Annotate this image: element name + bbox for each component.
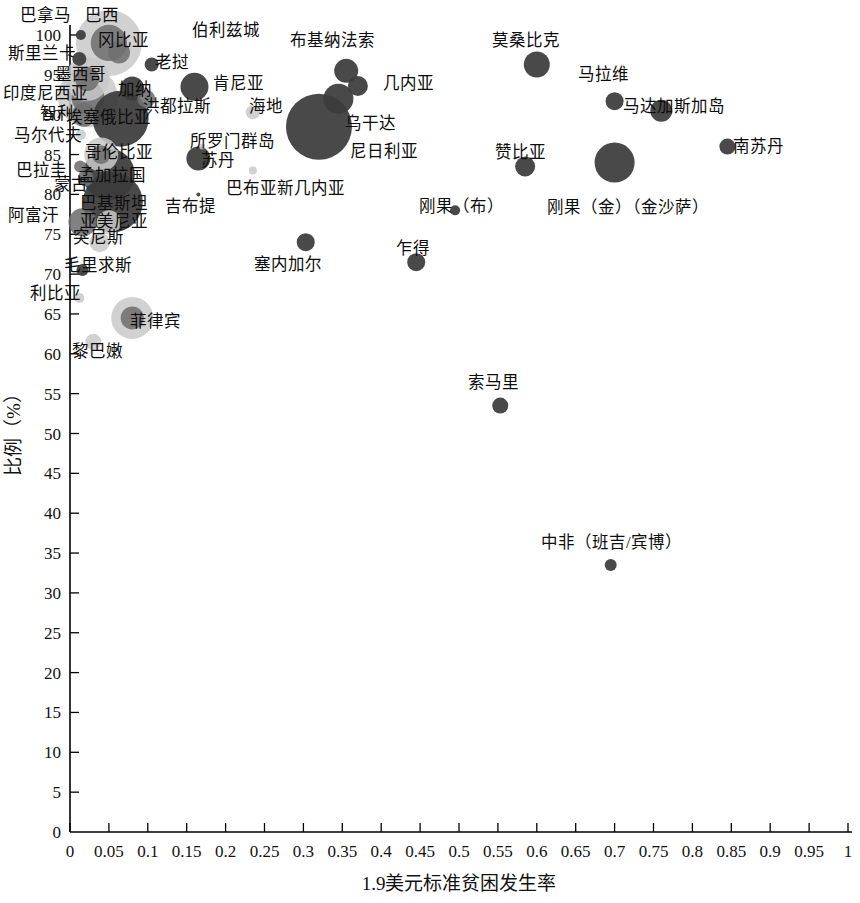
data-bubble[interactable]: [76, 30, 86, 40]
point-label: 毛里求斯: [64, 258, 132, 275]
x-tick-label: 0.55: [483, 842, 513, 861]
x-tick-label: 0.7: [604, 842, 626, 861]
point-label: 洪都拉斯: [143, 99, 211, 116]
point-label: 马尔代夫: [14, 128, 82, 145]
point-label: 莫桑比克: [492, 33, 560, 50]
y-tick-label: 40: [44, 504, 61, 523]
x-tick-label: 0.3: [293, 842, 314, 861]
x-tick-label: 0.75: [639, 842, 669, 861]
data-bubble[interactable]: [524, 51, 550, 77]
y-tick-label: 30: [44, 584, 61, 603]
y-tick-label: 10: [44, 743, 61, 762]
point-label: 乍得: [396, 241, 430, 258]
y-tick-label: 75: [44, 225, 61, 244]
y-tick-label: 0: [53, 823, 62, 842]
point-label: 海地: [249, 99, 283, 116]
point-label: 斯里兰卡: [8, 46, 76, 63]
point-label: 南苏丹: [733, 139, 784, 156]
point-label: 巴基斯坦: [80, 196, 148, 213]
y-axis-title: 比例（%）: [3, 384, 24, 476]
point-label: 刚果（布）: [419, 199, 504, 216]
point-label: 赞比亚: [495, 145, 546, 162]
point-label: 马达加斯加岛: [623, 99, 725, 116]
x-tick-label: 0.9: [760, 842, 781, 861]
point-label: 马拉维: [578, 67, 629, 84]
point-label: 哥伦比亚: [85, 145, 153, 162]
point-label: 冈比亚: [98, 33, 149, 50]
x-tick-label: 0.25: [250, 842, 280, 861]
y-tick-label: 65: [44, 305, 61, 324]
y-tick-label: 5: [53, 783, 62, 802]
point-label: 塞内加尔: [254, 257, 322, 274]
point-label: 墨西哥: [55, 67, 106, 84]
x-tick-label: 0.95: [794, 842, 824, 861]
point-label: 黎巴嫩: [72, 344, 123, 361]
point-label: 索马里: [468, 375, 519, 392]
x-tick-label: 0.1: [137, 842, 158, 861]
point-label: 埃塞俄比亚: [66, 110, 151, 127]
x-tick-label: 0.45: [405, 842, 435, 861]
y-tick-label: 100: [36, 26, 62, 45]
bubble-scatter-chart: 00.050.10.150.20.250.30.350.40.450.50.55…: [0, 0, 860, 903]
data-bubble[interactable]: [595, 143, 635, 183]
point-label: 刚果（金）（金沙萨）: [547, 200, 709, 217]
point-label: 尼日利亚: [350, 144, 418, 161]
point-label: 巴拿马: [20, 8, 71, 25]
point-label: 乌干达: [345, 116, 396, 133]
y-tick-label: 70: [44, 265, 61, 284]
point-label: 所罗门群岛: [190, 134, 275, 151]
point-label: 印度尼西亚: [3, 86, 88, 103]
x-tick-label: 0.5: [448, 842, 469, 861]
data-bubble[interactable]: [606, 92, 624, 110]
point-label: 中非（班吉/宾博）: [541, 535, 682, 552]
point-label: 老挝: [155, 55, 189, 72]
data-bubbles: [58, 10, 736, 571]
data-bubble[interactable]: [605, 559, 617, 571]
x-tick-label: 0: [66, 842, 75, 861]
x-tick-label: 0.4: [371, 842, 393, 861]
x-tick-label: 0.35: [327, 842, 357, 861]
point-label: 利比亚: [30, 286, 81, 303]
point-label: 布基纳法索: [290, 33, 375, 50]
data-bubble[interactable]: [249, 166, 257, 174]
y-tick-label: 60: [44, 345, 61, 364]
x-tick-label: 0.6: [526, 842, 547, 861]
point-label: 伯利兹城: [192, 23, 260, 40]
point-label: 肯尼亚: [213, 76, 264, 93]
x-tick-label: 0.15: [172, 842, 202, 861]
y-tick-label: 35: [44, 544, 61, 563]
x-axis-title: 1.9美元标准贫困发生率: [362, 873, 557, 894]
data-bubble[interactable]: [348, 76, 368, 96]
point-label: 突尼斯: [73, 230, 124, 247]
y-tick-label: 20: [44, 664, 61, 683]
point-label: 巴西: [85, 8, 119, 25]
y-tick-label: 15: [44, 703, 61, 722]
chart-page: 00.050.10.150.20.250.30.350.40.450.50.55…: [0, 0, 860, 903]
point-label: 吉布提: [165, 199, 216, 216]
y-tick-label: 25: [44, 624, 61, 643]
x-tick-label: 0.8: [682, 842, 703, 861]
point-label: 孟加拉国: [78, 168, 146, 185]
x-tick-label: 0.2: [215, 842, 236, 861]
data-bubble[interactable]: [492, 398, 508, 414]
data-bubble[interactable]: [196, 192, 200, 196]
y-tick-label: 45: [44, 464, 61, 483]
y-tick-label: 55: [44, 385, 61, 404]
data-bubble[interactable]: [297, 233, 315, 251]
point-label: 菲律宾: [130, 314, 181, 331]
point-label: 苏丹: [201, 153, 235, 170]
x-tick-label: 0.05: [94, 842, 124, 861]
point-label: 阿富汗: [8, 208, 59, 225]
point-label: 几内亚: [383, 76, 434, 93]
x-tick-label: 0.85: [716, 842, 746, 861]
x-tick-label: 1: [844, 842, 853, 861]
point-label: 巴布亚新几内亚: [226, 181, 345, 198]
y-tick-label: 50: [44, 425, 61, 444]
x-tick-label: 0.65: [561, 842, 591, 861]
